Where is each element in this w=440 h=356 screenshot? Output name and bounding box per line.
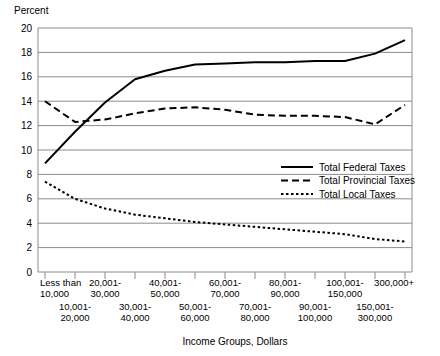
x-axis-tick-label: 300,000+ (374, 277, 414, 288)
x-axis-tick-label: 10,001- (59, 301, 91, 312)
y-axis-tick-label: 0 (26, 267, 32, 278)
x-axis-tick-label: 80,001- (269, 277, 301, 288)
x-axis-tick-label: 50,000 (150, 288, 179, 299)
x-axis-tick-label: 70,000 (210, 288, 239, 299)
y-axis-tick-label: 12 (21, 120, 33, 131)
x-axis-tick-label: 100,001- (326, 277, 364, 288)
y-axis-tick-label: 10 (21, 145, 33, 156)
x-axis-tick-label: 70,001- (239, 301, 271, 312)
x-axis-tick-label: 30,000 (90, 288, 119, 299)
legend-label: Total Local Taxes (319, 189, 396, 200)
x-axis-tick-label: 80,000 (240, 312, 269, 323)
x-axis-tick-label: Less than (40, 277, 81, 288)
x-axis-title: Income Groups, Dollars (182, 336, 287, 347)
y-axis-tick-label: 20 (21, 23, 33, 34)
series-line-solid (45, 40, 405, 163)
y-axis-tick-label: 8 (26, 169, 32, 180)
series-line-dashed (45, 101, 405, 124)
y-axis-tick-label: 14 (21, 96, 33, 107)
x-axis-tick-label: 40,000 (120, 312, 149, 323)
x-axis-tick-label: 60,000 (180, 312, 209, 323)
x-axis-tick-label: 40,001- (149, 277, 181, 288)
x-axis-tick-label: 100,000 (298, 312, 332, 323)
x-axis-tick-label: 150,000 (328, 288, 362, 299)
y-axis-title: Percent (14, 5, 49, 16)
chart-container: Percent02468101214161820Less than20,001-… (0, 0, 440, 356)
y-axis-tick-label: 18 (21, 47, 33, 58)
legend-label: Total Provincial Taxes (319, 175, 415, 186)
y-axis-tick-label: 16 (21, 71, 33, 82)
x-axis-tick-label: 300,000 (358, 312, 392, 323)
tax-rates-line-chart: Percent02468101214161820Less than20,001-… (0, 0, 440, 356)
y-axis-tick-label: 4 (26, 218, 32, 229)
x-axis-tick-label: 90,000 (270, 288, 299, 299)
x-axis-tick-label: 20,000 (60, 312, 89, 323)
legend-label: Total Federal Taxes (319, 162, 406, 173)
x-axis-tick-label: 50,001- (179, 301, 211, 312)
x-axis-tick-label: 150,001- (356, 301, 394, 312)
y-axis-tick-label: 2 (26, 242, 32, 253)
x-axis-tick-label: 60,001- (209, 277, 241, 288)
x-axis-tick-label: 90,001- (299, 301, 331, 312)
y-axis-tick-label: 6 (26, 193, 32, 204)
x-axis-tick-label: 10,000 (40, 288, 69, 299)
x-axis-tick-label: 20,001- (89, 277, 121, 288)
x-axis-tick-label: 30,001- (119, 301, 151, 312)
